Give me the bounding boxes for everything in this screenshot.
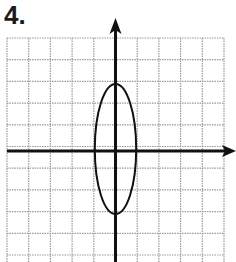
coordinate-graph [0,0,236,262]
axes [7,18,236,262]
